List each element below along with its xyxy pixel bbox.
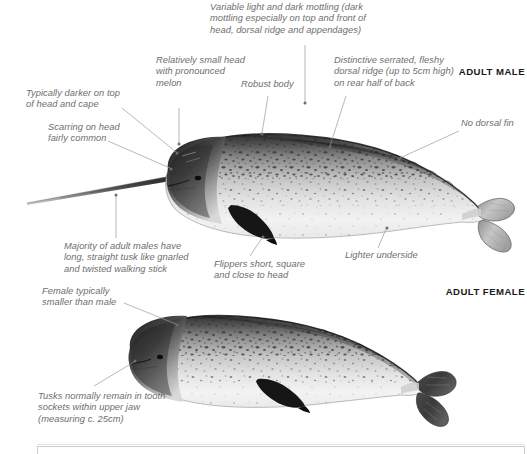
annotation-flippers: Flippers short, square and close to head <box>214 259 334 282</box>
annotation-female-tusks: Tusks normally remain in tooth sockets w… <box>38 391 208 425</box>
annotation-darker-top: Typically darker on top of head and cape <box>26 88 146 111</box>
annotation-mottling: Variable light and dark mottling (dark m… <box>210 2 395 36</box>
annotation-no-dorsal-fin: No dorsal fin <box>461 118 527 129</box>
adult-male-label: ADULT MALE <box>395 66 525 77</box>
annotation-robust-body: Robust body <box>241 79 331 90</box>
bottom-divider <box>37 444 525 445</box>
annotation-lighter-underside: Lighter underside <box>345 250 450 261</box>
illustration-plate: Variable light and dark mottling (dark m… <box>0 0 527 454</box>
annotation-scarring: Scarring on head fairly common <box>48 122 153 145</box>
female-head <box>129 316 187 402</box>
adult-male-figure <box>27 130 515 252</box>
tusk <box>27 176 171 205</box>
annotation-female-smaller: Female typically smaller than male <box>42 286 152 309</box>
male-head <box>167 137 226 224</box>
annotation-tusk: Majority of adult males have long, strai… <box>64 241 224 275</box>
bottom-panel-edge <box>37 446 525 454</box>
adult-female-label: ADULT FEMALE <box>385 286 525 297</box>
